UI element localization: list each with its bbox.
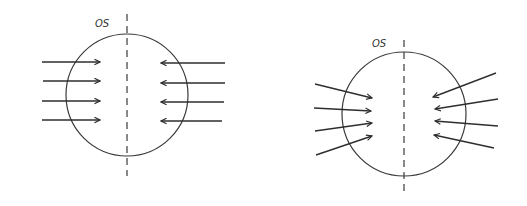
arrow-icon [316,136,372,155]
os-label-right: OS [372,38,387,49]
arrow-icon [315,84,372,98]
arrow-icon [433,73,496,97]
diagram-left: OS [42,14,225,176]
arrow-icon [435,99,498,109]
diagram-canvas: OS OS [0,0,527,206]
os-label-left: OS [95,18,110,29]
arrows-left [42,62,225,121]
arrow-icon [435,121,498,126]
diagram-right: OS [314,38,498,193]
arrow-icon [434,135,494,148]
